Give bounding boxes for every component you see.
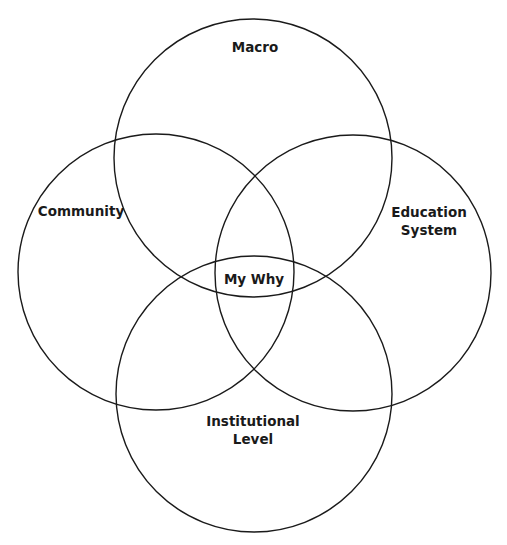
- label-community-line-1: Community: [38, 202, 124, 220]
- circle-macro: [114, 19, 392, 297]
- label-macro-line-1: Macro: [232, 38, 278, 56]
- label-institutional-line-2: Level: [206, 430, 300, 448]
- label-community: Community: [38, 202, 124, 220]
- label-center-my-why: My Why: [224, 270, 284, 288]
- label-macro: Macro: [232, 38, 278, 56]
- label-institutional-level: Institutional Level: [206, 412, 300, 448]
- center-label: My Why: [224, 270, 284, 288]
- label-education-system: Education System: [391, 203, 467, 239]
- label-education-line-2: System: [391, 221, 467, 239]
- label-institutional-line-1: Institutional: [206, 412, 300, 430]
- label-education-line-1: Education: [391, 203, 467, 221]
